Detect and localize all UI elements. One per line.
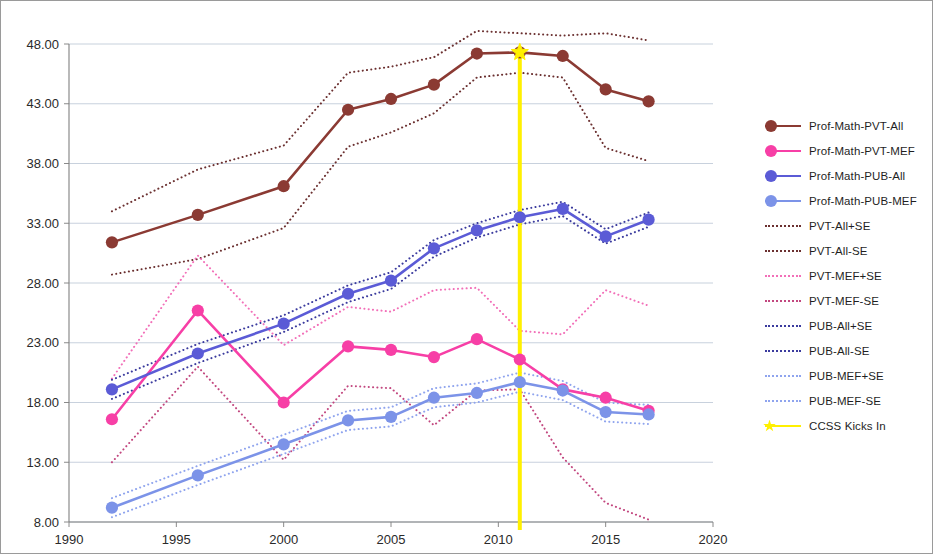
y-axis-tick-label: 18.00	[26, 395, 59, 410]
legend-key-pub-all	[763, 169, 803, 183]
legend-key-pvt-mef	[763, 144, 803, 158]
legend-item[interactable]: PUB-MEF+SE	[763, 363, 935, 388]
legend-item-label: Prof-Math-PVT-All	[809, 120, 903, 132]
legend-key-pub-mef-minus-se	[763, 394, 803, 408]
data-point-marker[interactable]	[278, 438, 290, 450]
data-point-marker[interactable]	[428, 242, 440, 254]
x-axis-tick-label: 2015	[591, 532, 620, 547]
legend-dotted-swatch	[765, 350, 801, 352]
data-point-marker[interactable]	[600, 392, 612, 404]
legend-item[interactable]: PVT-All-SE	[763, 238, 935, 263]
data-point-marker[interactable]	[278, 318, 290, 330]
legend-key-pub-mef-plus-se	[763, 369, 803, 383]
data-point-marker[interactable]	[557, 50, 569, 62]
data-point-marker[interactable]	[385, 344, 397, 356]
data-point-marker[interactable]	[278, 180, 290, 192]
data-point-marker[interactable]	[342, 104, 354, 116]
legend-item[interactable]: PUB-All-SE	[763, 338, 935, 363]
legend-key-pvt-mef-plus-se	[763, 269, 803, 283]
data-point-marker[interactable]	[514, 376, 526, 388]
legend-key-pub-all-plus-se	[763, 319, 803, 333]
series-line-pub-all-se	[112, 216, 649, 399]
chart-plot-area: 8.0013.0018.0023.0028.0033.0038.0043.004…	[1, 1, 761, 556]
y-axis-tick-label: 8.00	[34, 515, 59, 530]
legend-item-label: Prof-Math-PUB-All	[809, 170, 905, 182]
legend-key-ccss	[763, 419, 803, 433]
legend-item-label: PUB-MEF+SE	[809, 370, 884, 382]
data-point-marker[interactable]	[600, 83, 612, 95]
data-point-marker[interactable]	[428, 79, 440, 91]
legend-dotted-swatch	[765, 375, 801, 377]
data-point-marker[interactable]	[278, 396, 290, 408]
legend-item[interactable]: CCSS Kicks In	[763, 413, 935, 438]
y-axis-tick-label: 28.00	[26, 276, 59, 291]
data-point-marker[interactable]	[557, 384, 569, 396]
legend-item[interactable]: PVT-MEF+SE	[763, 263, 935, 288]
legend-item-label: PVT-MEF+SE	[809, 270, 882, 282]
x-axis-tick-label: 2020	[699, 532, 728, 547]
legend-marker-swatch	[765, 195, 777, 207]
series-line-prof-math-pub-mef	[112, 382, 649, 507]
data-point-marker[interactable]	[643, 95, 655, 107]
legend-item[interactable]: PUB-MEF-SE	[763, 388, 935, 413]
legend-item[interactable]: Prof-Math-PVT-MEF	[763, 138, 935, 163]
legend-item-label: CCSS Kicks In	[809, 420, 886, 432]
legend-item-label: PUB-All-SE	[809, 345, 869, 357]
legend-item-label: PVT-MEF-SE	[809, 295, 879, 307]
data-point-marker[interactable]	[192, 469, 204, 481]
legend-item[interactable]: Prof-Math-PVT-All	[763, 113, 935, 138]
legend-item[interactable]: Prof-Math-PUB-All	[763, 163, 935, 188]
legend-item[interactable]: Prof-Math-PUB-MEF	[763, 188, 935, 213]
data-point-marker[interactable]	[106, 383, 118, 395]
data-point-marker[interactable]	[428, 392, 440, 404]
x-axis-tick-label: 1995	[162, 532, 191, 547]
data-point-marker[interactable]	[192, 304, 204, 316]
y-axis-tick-label: 23.00	[26, 335, 59, 350]
data-point-marker[interactable]	[557, 203, 569, 215]
data-point-marker[interactable]	[106, 413, 118, 425]
legend-dotted-swatch	[765, 225, 801, 227]
legend-key-pub-all-minus-se	[763, 344, 803, 358]
legend-item-label: PUB-All+SE	[809, 320, 872, 332]
data-point-marker[interactable]	[643, 214, 655, 226]
x-axis-tick-label: 2005	[377, 532, 406, 547]
y-axis-tick-label: 38.00	[26, 156, 59, 171]
data-point-marker[interactable]	[342, 288, 354, 300]
chart-frame: 8.0013.0018.0023.0028.0033.0038.0043.004…	[0, 0, 933, 554]
data-point-marker[interactable]	[106, 502, 118, 514]
legend-key-pvt-all-minus-se	[763, 244, 803, 258]
data-point-marker[interactable]	[428, 351, 440, 363]
legend-item[interactable]: PVT-All+SE	[763, 213, 935, 238]
legend-dotted-swatch	[765, 300, 801, 302]
data-point-marker[interactable]	[600, 406, 612, 418]
data-point-marker[interactable]	[385, 93, 397, 105]
y-axis-tick-label: 33.00	[26, 216, 59, 231]
data-point-marker[interactable]	[471, 387, 483, 399]
legend-marker-swatch	[765, 170, 777, 182]
legend-marker-swatch	[765, 145, 777, 157]
data-point-marker[interactable]	[385, 275, 397, 287]
legend-item-label: PVT-All+SE	[809, 220, 870, 232]
data-point-marker[interactable]	[643, 408, 655, 420]
x-axis-tick-label: 2010	[484, 532, 513, 547]
legend-item[interactable]: PUB-All+SE	[763, 313, 935, 338]
legend-item-label: PVT-All-SE	[809, 245, 868, 257]
data-point-marker[interactable]	[192, 347, 204, 359]
data-point-marker[interactable]	[471, 47, 483, 59]
data-point-marker[interactable]	[471, 224, 483, 236]
data-point-marker[interactable]	[600, 230, 612, 242]
legend-item-label: Prof-Math-PUB-MEF	[809, 195, 917, 207]
legend-marker-swatch	[765, 120, 777, 132]
data-point-marker[interactable]	[192, 209, 204, 221]
legend-item[interactable]: PVT-MEF-SE	[763, 288, 935, 313]
series-line-pub-mef-se	[112, 392, 649, 517]
data-point-marker[interactable]	[342, 414, 354, 426]
legend-dotted-swatch	[765, 400, 801, 402]
data-point-marker[interactable]	[106, 236, 118, 248]
legend-key-pub-mef	[763, 194, 803, 208]
data-point-marker[interactable]	[514, 353, 526, 365]
data-point-marker[interactable]	[471, 333, 483, 345]
data-point-marker[interactable]	[385, 411, 397, 423]
data-point-marker[interactable]	[514, 211, 526, 223]
data-point-marker[interactable]	[342, 340, 354, 352]
